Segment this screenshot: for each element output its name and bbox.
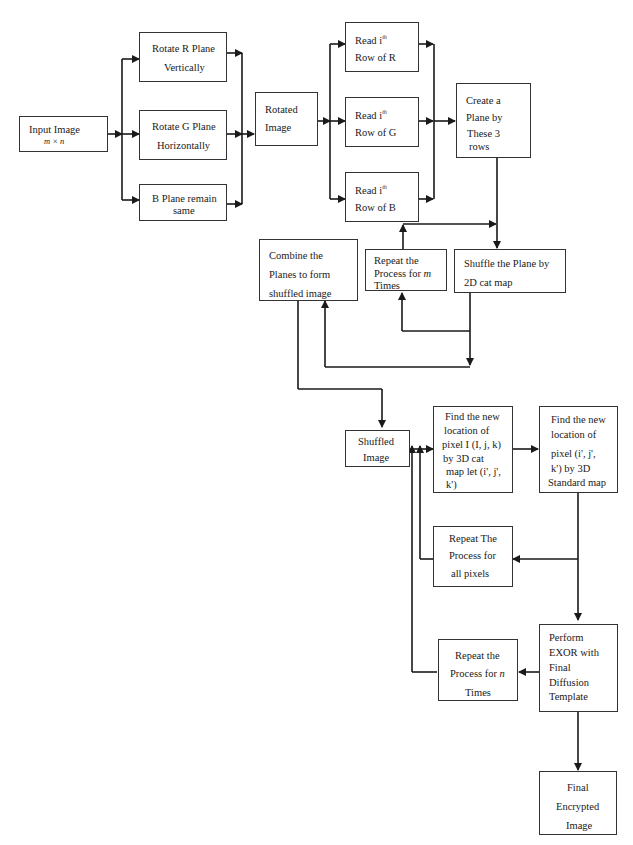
node-label: Diffusion [549,678,589,689]
node-find-3d-standard-map: Find the new location of pixel (i', j', … [539,406,618,493]
node-label: shuffled image [269,289,332,300]
node-shuffle-plane: Shuffle the Plane by 2D cat map [454,249,566,293]
node-label: Repeat The [449,534,497,545]
node-label: Repeat the [374,256,419,267]
node-label: Shuffled [358,437,394,448]
node-label: Find the new [445,412,500,423]
node-label: Rotate R Plane [152,44,215,55]
node-repeat-all-pixels: Repeat The Process for all pixels [433,526,513,587]
node-label: all pixels [451,569,489,580]
node-label: Combine the [269,251,323,262]
node-label: Process for m [374,269,431,280]
node-input-image: Input Image m × n [19,116,108,152]
node-label: Process for [449,551,496,562]
node-rotated-image: Rotated Image [255,92,318,146]
node-label: rows [469,142,489,153]
node-label: location of [444,426,489,437]
node-label: EXOR with [549,648,599,659]
node-label: Image [363,453,389,464]
node-variable: m × n [44,137,64,146]
node-repeat-m-times: Repeat the Process for m Times [365,249,447,291]
node-label: Read ith [355,34,387,46]
node-label: Read ith [355,184,387,196]
node-label: pixel I (I, j, k) [442,440,501,451]
node-label: Final [567,783,589,794]
node-shuffled-image: Shuffled Image [345,430,410,467]
node-label: Standard map [548,478,606,489]
flowchart-canvas: Input Image m × n Rotate R Plane Vertica… [0,0,633,845]
node-label: These 3 [467,129,500,140]
node-label: pixel (i', j', [551,449,596,460]
node-label: B Plane remain [152,194,217,205]
node-read-row-g: Read ith Row of G [345,97,419,147]
node-label: Repeat the [455,651,500,662]
node-label: Horizontally [157,141,210,152]
node-label: by 3D cat [443,454,484,465]
node-rotate-r-plane: Rotate R Plane Vertically [139,32,227,82]
node-label: Template [549,692,588,703]
node-find-3d-cat-map: Find the new location of pixel I (I, j, … [433,406,513,493]
node-label: Rotated [265,105,298,116]
node-label: Times [374,281,400,292]
node-label: Row of G [355,128,396,139]
node-label: Times [465,688,491,699]
node-label: Image [566,821,592,832]
node-label: Plane by [466,113,502,124]
node-label: Encrypted [556,802,599,813]
node-label: k') by 3D [551,464,590,475]
node-label: Process for n [450,669,505,680]
node-repeat-n-times: Repeat the Process for n Times [438,639,518,701]
node-label: 2D cat map [464,278,512,289]
node-b-plane: B Plane remain same [139,184,227,221]
node-label: Image [265,123,291,134]
node-rotate-g-plane: Rotate G Plane Horizontally [139,110,227,160]
node-combine-planes: Combine the Planes to form shuffled imag… [259,239,358,301]
node-label: Rotate G Plane [152,122,216,133]
node-label: Shuffle the Plane by [464,259,549,270]
node-label: Row of B [355,203,396,214]
node-label: k') [446,480,457,491]
node-label: Perform [549,633,583,644]
node-label: Final [549,663,571,674]
node-label: Vertically [164,63,205,74]
node-label: same [173,206,195,217]
node-perform-exor: Perform EXOR with Final Diffusion Templa… [539,624,618,712]
node-label: Row of R [355,53,396,64]
node-read-row-b: Read ith Row of B [345,172,419,222]
node-label: Planes to form [269,270,330,281]
node-label: Input Image [29,125,80,136]
node-label: location of [551,430,596,441]
node-create-plane: Create a Plane by These 3 rows [456,83,531,158]
node-label: Read ith [355,109,387,121]
node-label: map let (i', j', [446,467,501,478]
node-read-row-r: Read ith Row of R [345,22,419,72]
node-label: Create a [466,96,501,107]
node-label: Find the new [551,415,606,426]
node-final-encrypted-image: Final Encrypted Image [539,771,617,835]
